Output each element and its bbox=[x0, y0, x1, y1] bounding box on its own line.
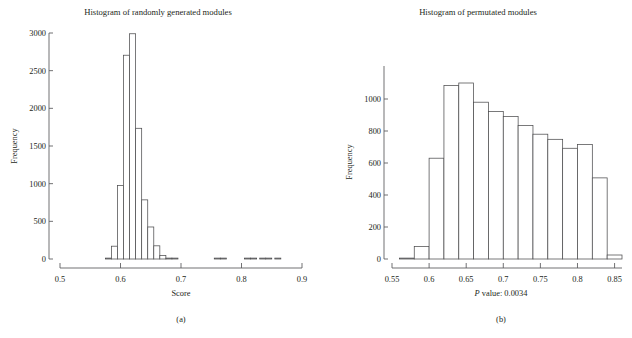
chart-b-yticklabel: 400 bbox=[368, 191, 381, 200]
chart-a-ylabel: Frequency bbox=[10, 128, 19, 164]
chart-a-xticklabel: 0.5 bbox=[55, 275, 65, 284]
chart-a-bar bbox=[251, 258, 257, 259]
chart-a-bars bbox=[105, 34, 280, 259]
chart-a-yticklabels: 050010001500200025003000 bbox=[29, 29, 46, 264]
chart-a-xticklabel: 0.7 bbox=[176, 275, 186, 284]
chart-b-bar bbox=[414, 247, 429, 259]
chart-b-bar bbox=[548, 139, 563, 259]
chart-b-xticklabel: 0.55 bbox=[385, 275, 400, 284]
chart-a-xaxis: 0.50.60.70.80.9 bbox=[55, 263, 307, 284]
chart-b-yticks bbox=[384, 99, 388, 259]
chart-a-yticklabel: 2500 bbox=[29, 67, 46, 76]
chart-a-yticks bbox=[49, 33, 53, 259]
chart-b-xlabel-rest: value: 0.0034 bbox=[480, 289, 528, 298]
chart-b-yticklabel: 0 bbox=[377, 255, 381, 264]
chart-a-title: Histogram of randomly generated modules bbox=[84, 7, 232, 17]
chart-a-bar bbox=[136, 128, 142, 259]
chart-b-xticklabels: 0.550.60.650.70.750.80.85 bbox=[385, 275, 622, 284]
chart-b-bar bbox=[518, 125, 533, 259]
chart-b-yticklabel: 200 bbox=[368, 223, 381, 232]
chart-a-bar bbox=[166, 258, 172, 259]
chart-b-bar bbox=[444, 85, 459, 259]
chart-a-yticklabel: 2000 bbox=[29, 104, 46, 113]
chart-a-yaxis: 050010001500200025003000 bbox=[29, 29, 53, 264]
chart-a-bar bbox=[148, 227, 154, 259]
chart-a-xticklabels: 0.50.60.70.80.9 bbox=[55, 275, 307, 284]
chart-a-bar bbox=[245, 258, 251, 259]
figure-container: Histogram of randomly generated modules … bbox=[0, 0, 632, 338]
chart-a-bar bbox=[220, 258, 226, 259]
chart-a-bar bbox=[172, 258, 178, 259]
chart-b-title: Histogram of permutated modules bbox=[419, 7, 537, 17]
chart-b-xlabel: P value: 0.0034 bbox=[474, 289, 529, 298]
chart-b-bar bbox=[607, 255, 622, 259]
chart-a-bar bbox=[160, 256, 166, 259]
chart-a-bar bbox=[154, 246, 160, 259]
chart-a-bar bbox=[275, 258, 281, 259]
chart-a-bar bbox=[124, 55, 130, 259]
chart-b-xticklabel: 0.65 bbox=[459, 275, 474, 284]
chart-a-bar bbox=[105, 258, 111, 259]
panel-a-caption: (a) bbox=[176, 315, 186, 324]
panel-b: Histogram of permutated modules 02004006… bbox=[316, 0, 632, 338]
chart-b-xticklabel: 0.6 bbox=[424, 275, 434, 284]
chart-b-xticklabel: 0.85 bbox=[607, 275, 622, 284]
chart-a-bar bbox=[111, 246, 117, 259]
chart-b-bar bbox=[429, 158, 444, 259]
chart-a-bar bbox=[260, 258, 266, 259]
panel-b-caption: (b) bbox=[496, 315, 506, 324]
chart-b-bar bbox=[503, 117, 518, 259]
chart-a-svg: Histogram of randomly generated modules … bbox=[0, 0, 316, 338]
chart-a-yticklabel: 0 bbox=[42, 255, 46, 264]
chart-b-ylabel: Frequency bbox=[345, 144, 354, 180]
chart-b-xticklabel: 0.7 bbox=[498, 275, 508, 284]
chart-a-yticklabel: 1000 bbox=[29, 180, 46, 189]
chart-b-bar bbox=[474, 102, 489, 259]
chart-b-xaxis: 0.550.60.650.70.750.80.85 bbox=[385, 263, 622, 284]
chart-a-yticklabel: 500 bbox=[33, 217, 46, 226]
chart-a-xticks bbox=[60, 263, 302, 268]
chart-b-bars bbox=[399, 83, 622, 259]
chart-a-bar bbox=[130, 34, 136, 259]
chart-a-bar bbox=[266, 258, 272, 259]
chart-b-yaxis: 02004006008001000 bbox=[364, 66, 388, 264]
chart-a-xlabel: Score bbox=[171, 289, 190, 298]
chart-a-bar bbox=[117, 186, 123, 259]
chart-a-xticklabel: 0.6 bbox=[115, 275, 125, 284]
chart-a-xticklabel: 0.8 bbox=[236, 275, 246, 284]
chart-b-bar bbox=[399, 258, 414, 259]
chart-b-bar bbox=[577, 145, 592, 259]
chart-b-bar bbox=[592, 178, 607, 259]
chart-b-xticks bbox=[392, 263, 615, 268]
chart-b-yticklabels: 02004006008001000 bbox=[364, 95, 381, 264]
chart-b-yticklabel: 800 bbox=[368, 127, 381, 136]
chart-b-bar bbox=[459, 83, 474, 259]
chart-b-yticklabel: 600 bbox=[368, 159, 381, 168]
panel-a: Histogram of randomly generated modules … bbox=[0, 0, 316, 338]
chart-a-xticklabel: 0.9 bbox=[297, 275, 307, 284]
chart-b-yticklabel: 1000 bbox=[364, 95, 381, 104]
chart-a-bar bbox=[142, 200, 148, 259]
chart-b-bar bbox=[533, 134, 548, 259]
chart-a-yticklabel: 1500 bbox=[29, 142, 46, 151]
chart-b-xticklabel: 0.8 bbox=[572, 275, 582, 284]
chart-a-bar bbox=[214, 258, 220, 259]
chart-b-xticklabel: 0.75 bbox=[533, 275, 548, 284]
chart-a-yticklabel: 3000 bbox=[29, 29, 46, 38]
chart-b-bar bbox=[563, 148, 578, 259]
chart-b-bar bbox=[488, 111, 503, 259]
chart-b-svg: Histogram of permutated modules 02004006… bbox=[316, 0, 632, 338]
